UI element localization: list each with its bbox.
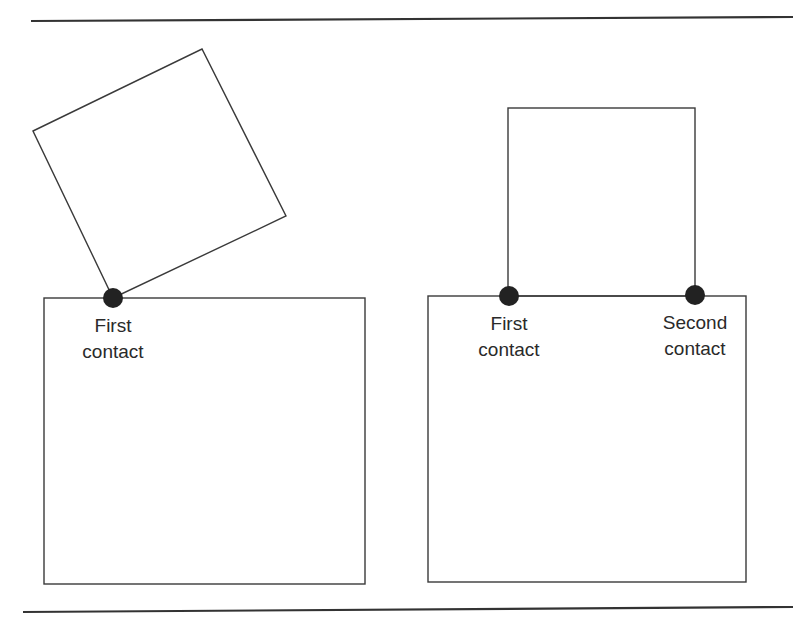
right-first-contact-dot: [499, 286, 519, 306]
right-first-contact-label-line2: contact: [478, 339, 540, 360]
upright-square: [508, 108, 695, 296]
top-rule: [31, 17, 793, 21]
left-first-contact-label-line2: contact: [82, 341, 144, 362]
right-panel: First contact Second contact: [428, 108, 746, 582]
second-contact-label-line1: Second: [663, 312, 727, 333]
left-first-contact-label-line1: First: [95, 315, 133, 336]
right-first-contact-label-line1: First: [491, 313, 529, 334]
bottom-rule: [23, 607, 793, 612]
contact-diagram: First contact First contact Second conta…: [0, 0, 793, 622]
second-contact-dot: [685, 285, 705, 305]
tilted-square: [33, 49, 286, 298]
first-contact-dot: [103, 288, 123, 308]
second-contact-label-line2: contact: [664, 338, 726, 359]
left-panel: First contact: [33, 49, 365, 584]
